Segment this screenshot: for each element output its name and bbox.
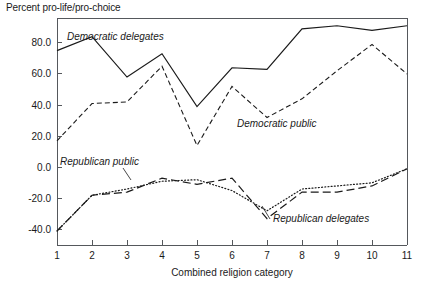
x-tick-label: 4 [159,250,165,261]
x-tick-label: 11 [402,250,413,261]
series-annotations: Democratic delegatesDemocratic publicRep… [60,31,369,224]
x-tick-label: 5 [194,250,200,261]
series-line [57,44,407,145]
series-annotation-label: Democratic public [237,118,316,129]
x-tick-label: 9 [334,250,340,261]
series-annotation-label: Republican public [60,156,139,167]
x-axis-ticks: 1234567891011 [54,240,412,261]
y-tick-label: 60.0 [32,68,52,79]
series-annotation-label: Democratic delegates [67,31,164,42]
x-tick-label: 7 [264,250,270,261]
y-tick-label: 80.0 [32,37,52,48]
plot-frame [57,18,407,245]
y-tick-label: 20.0 [32,131,52,142]
y-tick-label: 40.0 [32,100,52,111]
chart-figure: Percent pro-life/pro-choice 80.060.040.0… [0,0,432,291]
y-tick-label: -20.0 [28,193,51,204]
x-tick-label: 8 [299,250,305,261]
x-tick-label: 1 [54,250,60,261]
x-tick-label: 6 [229,250,235,261]
x-axis-title: Combined religion category [171,267,293,278]
series-annotation-label: Republican delegates [273,213,369,224]
data-series-group [57,26,407,231]
x-axis-title-group: Combined religion category [171,267,293,278]
leader-line-republican-public [123,168,131,180]
x-tick-label: 10 [366,250,378,261]
plot-border [57,18,407,245]
x-tick-label: 2 [89,250,95,261]
y-tick-label: 0.0 [37,162,51,173]
y-tick-label: -40.0 [28,224,51,235]
chart-plot-area: 80.060.040.020.00.0-20.0-40.0 1234567891… [0,0,432,291]
x-tick-label: 3 [124,250,130,261]
